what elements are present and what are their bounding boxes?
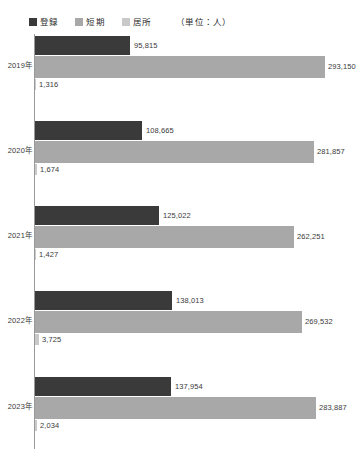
plot-area: 2019年95,815293,1501,3162020年108,665281,8… [0, 34, 364, 449]
bar-短期[interactable] [35, 141, 314, 163]
bar-row: 269,532 [35, 311, 333, 333]
legend-label-kyosho: 居所 [133, 18, 151, 27]
bar-value-label: 293,150 [328, 63, 356, 71]
bar-居所[interactable] [35, 249, 36, 260]
bar-row: 137,954 [35, 377, 203, 396]
bar-row: 108,665 [35, 121, 174, 140]
bar-短期[interactable] [35, 56, 325, 78]
bar-登録[interactable] [35, 291, 172, 310]
legend-entry-tanki: 短期 [75, 18, 104, 27]
category-label: 2019年 [3, 62, 32, 70]
bar-value-label: 281,857 [317, 148, 345, 156]
bar-row: 1,674 [35, 164, 59, 175]
bar-row: 283,887 [35, 397, 347, 419]
bar-row: 125,022 [35, 206, 191, 225]
legend-entry-kyosho: 居所 [122, 18, 151, 27]
bar-登録[interactable] [35, 36, 130, 55]
legend-swatch-kyosho [122, 18, 130, 26]
bar-登録[interactable] [35, 377, 171, 396]
bar-value-label: 283,887 [319, 404, 347, 412]
bar-row: 1,316 [35, 79, 58, 90]
bar-居所[interactable] [35, 164, 37, 175]
bar-value-label: 2,034 [40, 422, 59, 430]
bar-value-label: 108,665 [146, 127, 174, 135]
legend-entry-toroku: 登録 [29, 18, 58, 27]
bar-短期[interactable] [35, 397, 316, 419]
bar-row: 1,427 [35, 249, 58, 260]
bar-居所[interactable] [35, 420, 37, 431]
bar-居所[interactable] [35, 334, 39, 345]
bar-value-label: 137,954 [175, 383, 203, 391]
bar-登録[interactable] [35, 206, 159, 225]
bar-row: 293,150 [35, 56, 356, 78]
category-label: 2021年 [3, 232, 32, 240]
legend-label-toroku: 登録 [40, 18, 58, 27]
bar-group: 2022年138,013269,5323,725 [0, 291, 364, 351]
bar-value-label: 1,427 [39, 251, 58, 259]
bar-value-label: 3,725 [42, 336, 61, 344]
bar-group: 2020年108,665281,8571,674 [0, 121, 364, 181]
bar-row: 3,725 [35, 334, 61, 345]
legend-label-tanki: 短期 [86, 18, 104, 27]
bar-value-label: 1,674 [40, 166, 59, 174]
bar-登録[interactable] [35, 121, 142, 140]
bar-value-label: 1,316 [39, 81, 58, 89]
bar-value-label: 269,532 [305, 318, 333, 326]
bar-value-label: 95,815 [134, 42, 158, 50]
bar-group: 2023年137,954283,8872,034 [0, 377, 364, 437]
legend-swatch-tanki [75, 18, 83, 26]
bar-value-label: 125,022 [163, 212, 191, 220]
bar-row: 2,034 [35, 420, 59, 431]
bar-row: 262,251 [35, 226, 325, 248]
legend-swatch-toroku [29, 18, 37, 26]
bar-value-label: 138,013 [176, 297, 204, 305]
bar-row: 138,013 [35, 291, 204, 310]
category-label: 2022年 [3, 317, 32, 325]
bar-row: 281,857 [35, 141, 345, 163]
category-label: 2023年 [3, 403, 32, 411]
category-label: 2020年 [3, 147, 32, 155]
bar-居所[interactable] [35, 79, 36, 90]
bar-短期[interactable] [35, 226, 294, 248]
chart-legend: 登録 短期 居所 （単位：人） [29, 15, 231, 29]
bar-chart: 登録 短期 居所 （単位：人） 2019年95,815293,1501,3162… [0, 0, 364, 457]
unit-note: （単位：人） [176, 18, 231, 27]
bar-group: 2021年125,022262,2511,427 [0, 206, 364, 266]
bar-短期[interactable] [35, 311, 302, 333]
bar-row: 95,815 [35, 36, 158, 55]
bar-group: 2019年95,815293,1501,316 [0, 36, 364, 96]
bar-value-label: 262,251 [297, 233, 325, 241]
